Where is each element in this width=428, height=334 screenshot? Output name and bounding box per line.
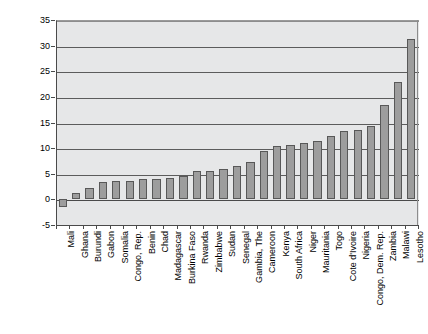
bar-chart: -505101520253035 MaliGhanaBurundiGabonSo… xyxy=(0,0,428,334)
y-axis-tick-label: 30 xyxy=(6,41,50,50)
bar xyxy=(179,176,187,200)
x-axis-ticks xyxy=(56,225,418,230)
x-axis-category-label: Congo, Dem. Rep. xyxy=(375,231,385,306)
y-axis-tick-label: 10 xyxy=(6,144,50,153)
x-axis-category-label: Madagascar xyxy=(173,231,183,281)
y-axis-tick xyxy=(51,71,55,72)
y-axis-tick xyxy=(51,97,55,98)
x-axis-tick xyxy=(136,225,137,229)
x-axis-category-label: Senegal xyxy=(241,231,251,264)
x-axis-category-label: Nigeria xyxy=(361,231,371,260)
bar xyxy=(394,82,402,200)
x-axis-category-label: Zambia xyxy=(388,231,398,261)
x-axis-category-label: Gabon xyxy=(106,231,116,258)
x-axis-category-label: Ghana xyxy=(80,231,90,258)
bar xyxy=(273,146,281,199)
y-axis-tick-label: 0 xyxy=(6,195,50,204)
x-axis-category-label: Mali xyxy=(66,231,76,248)
x-axis-category-label: Cameroon xyxy=(267,231,277,273)
bar xyxy=(327,136,335,200)
x-axis-category-label: Somalia xyxy=(120,231,130,264)
x-axis-category-label: South Africa xyxy=(294,231,304,280)
x-axis-tick xyxy=(338,225,339,229)
bar xyxy=(206,171,214,200)
x-axis-category-label: Chad xyxy=(160,231,170,253)
y-axis-tick-label: -5 xyxy=(6,221,50,230)
x-axis-tick xyxy=(297,225,298,229)
x-axis-category-label: Burundi xyxy=(93,231,103,262)
bar xyxy=(407,39,415,199)
bar xyxy=(72,193,80,199)
y-axis-tick-label: 20 xyxy=(6,92,50,101)
x-axis-tick xyxy=(378,225,379,229)
x-axis-category-label: Sudan xyxy=(227,231,237,257)
x-axis-category-label: Mauritania xyxy=(321,231,331,273)
x-axis-labels: MaliGhanaBurundiGabonSomaliaCongo, Rep.B… xyxy=(56,231,418,331)
bar xyxy=(59,199,67,207)
y-axis-tick xyxy=(51,46,55,47)
x-axis-category-label: Benin xyxy=(147,231,157,254)
x-axis-category-label: Congo, Rep. xyxy=(133,231,143,282)
x-axis-category-label: Rwanda xyxy=(200,231,210,264)
x-axis-tick xyxy=(56,225,57,229)
y-axis-tick-label: 15 xyxy=(6,118,50,127)
x-axis-tick xyxy=(257,225,258,229)
y-axis-tick xyxy=(51,174,55,175)
bar xyxy=(166,178,174,199)
y-axis-tick-label: 35 xyxy=(6,16,50,25)
bar xyxy=(99,182,107,199)
y-axis-tick xyxy=(51,123,55,124)
x-axis-tick xyxy=(163,225,164,229)
y-axis-tick xyxy=(51,199,55,200)
y-axis-tick xyxy=(51,148,55,149)
y-axis-tick-label: 5 xyxy=(6,169,50,178)
x-axis-tick xyxy=(284,225,285,229)
x-axis-category-label: Niger xyxy=(308,231,318,253)
x-axis-tick xyxy=(271,225,272,229)
x-axis-category-label: Togo xyxy=(334,231,344,251)
bar xyxy=(152,179,160,199)
x-axis-tick xyxy=(391,225,392,229)
y-axis-tick xyxy=(51,225,55,226)
x-axis-tick xyxy=(177,225,178,229)
bar xyxy=(286,145,294,199)
x-axis-tick xyxy=(83,225,84,229)
x-axis-tick xyxy=(311,225,312,229)
plot-right-edge xyxy=(417,20,418,225)
x-axis-category-label: Gambia, The xyxy=(254,231,264,283)
x-axis-tick xyxy=(203,225,204,229)
bar xyxy=(300,143,308,199)
x-axis-tick xyxy=(324,225,325,229)
x-axis-tick xyxy=(405,225,406,229)
y-axis: -505101520253035 xyxy=(0,20,50,225)
x-axis-tick xyxy=(110,225,111,229)
x-axis-tick xyxy=(351,225,352,229)
bar xyxy=(139,179,147,199)
x-axis-category-label: Zimbabwe xyxy=(214,231,224,273)
x-axis-category-label: Burkina Faso xyxy=(187,231,197,284)
bar xyxy=(313,141,321,199)
x-axis-tick xyxy=(418,225,419,229)
x-axis-tick xyxy=(230,225,231,229)
x-axis-tick xyxy=(96,225,97,229)
bar xyxy=(85,188,93,199)
bar xyxy=(260,151,268,199)
x-axis-category-label: Malawi xyxy=(401,231,411,259)
bars-layer xyxy=(56,20,418,225)
bar xyxy=(354,130,362,199)
x-axis-category-label: Kenya xyxy=(281,231,291,257)
bar xyxy=(233,166,241,200)
x-axis-tick xyxy=(123,225,124,229)
bar xyxy=(380,105,388,199)
bar xyxy=(246,162,254,199)
x-axis-category-label: Lesotho xyxy=(415,231,425,263)
x-axis-tick xyxy=(244,225,245,229)
bar xyxy=(112,181,120,199)
x-axis-tick xyxy=(69,225,70,229)
bar xyxy=(367,126,375,200)
bar xyxy=(193,171,201,199)
x-axis-tick xyxy=(150,225,151,229)
x-axis-tick xyxy=(217,225,218,229)
y-axis-tick-label: 25 xyxy=(6,67,50,76)
x-axis-tick xyxy=(190,225,191,229)
